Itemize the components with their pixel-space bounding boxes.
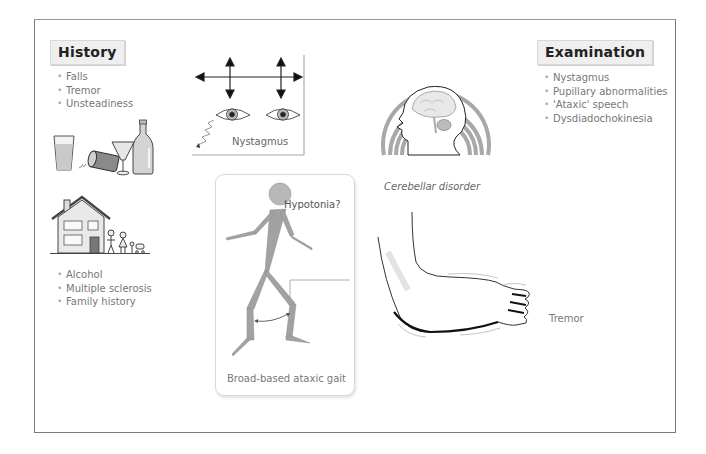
cerebellar-caption: Cerebellar disorder [384,181,480,192]
list-item: Multiple sclerosis [57,282,152,296]
list-item: Dysdiadochokinesia [544,112,668,126]
list-item: Pupillary abnormalities [544,85,668,99]
examination-sign-list: Nystagmus Pupillary abnormalities 'Ataxi… [544,71,668,125]
head-brain-icon [378,55,493,155]
list-item: 'Ataxic' speech [544,98,668,112]
hypotonia-annotation: Hypotonia? [284,199,341,210]
house-family-icon [50,195,150,257]
list-item: Unsteadiness [57,97,133,111]
nystagmus-caption: Nystagmus [232,136,288,147]
list-item: Alcohol [57,268,152,282]
tremor-caption: Tremor [549,313,584,324]
bottles-glasses-icon [52,118,162,178]
list-item: Family history [57,295,152,309]
history-heading: History [50,40,125,65]
list-item: Tremor [57,84,133,98]
history-cause-list: Alcohol Multiple sclerosis Family histor… [57,268,152,309]
list-item: Falls [57,70,133,84]
gait-caption: Broad-based ataxic gait [227,373,346,384]
history-symptom-list: Falls Tremor Unsteadiness [57,70,133,111]
outstretched-arm-icon [378,212,563,347]
list-item: Nystagmus [544,71,668,85]
examination-heading: Examination [537,40,653,65]
